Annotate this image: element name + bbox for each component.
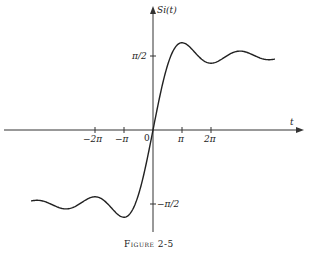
tick-label-neg-half-pi: −π/2 <box>157 199 179 209</box>
si-function-chart: Si(t) t 0 π 2π −π −2π π/2 −π/2 Figure 2-… <box>0 0 311 253</box>
x-axis-label: t <box>290 117 294 127</box>
tick-label-neg-2pi: −2π <box>83 134 103 144</box>
tick-label-pi: π <box>177 134 185 144</box>
tick-label-half-pi: π/2 <box>131 51 147 61</box>
tick-label-neg-pi: −π <box>115 134 130 144</box>
tick-label-2pi: 2π <box>203 134 217 144</box>
y-axis-arrow-icon <box>150 6 156 14</box>
t-axis-arrow-icon <box>296 127 304 133</box>
figure-caption: Figure 2-5 <box>124 239 174 249</box>
y-axis-label: Si(t) <box>157 5 177 15</box>
origin-label: 0 <box>144 133 150 143</box>
